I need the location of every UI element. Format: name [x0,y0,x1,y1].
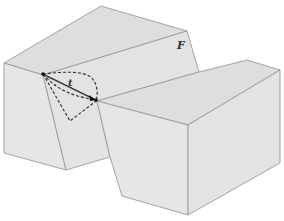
block-diagram: t F [0,0,284,221]
end-point [94,98,98,102]
path-label-t: t [68,77,73,88]
surface-label-f: F [176,39,186,52]
start-point [41,72,45,76]
